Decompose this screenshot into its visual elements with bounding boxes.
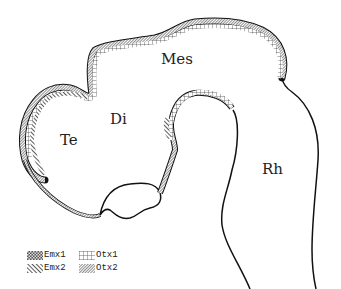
otx1-swatch-icon bbox=[79, 251, 95, 260]
legend-item-otx2: Otx2 bbox=[79, 263, 118, 273]
legend-item-otx1: Otx1 bbox=[79, 250, 118, 260]
label-rh: Rh bbox=[262, 162, 283, 177]
legend-label-emx1: Emx1 bbox=[44, 250, 66, 260]
legend-item-emx2: Emx2 bbox=[27, 263, 66, 273]
label-di: Di bbox=[110, 112, 127, 127]
emx2-swatch-icon bbox=[27, 264, 43, 273]
legend-label-otx1: Otx1 bbox=[96, 250, 118, 260]
legend-label-emx2: Emx2 bbox=[44, 263, 66, 273]
legend-label-otx2: Otx2 bbox=[96, 263, 118, 273]
otx2-swatch-icon bbox=[79, 264, 95, 273]
brain-outline bbox=[0, 0, 341, 289]
legend-item-emx1: Emx1 bbox=[27, 250, 66, 260]
label-te: Te bbox=[60, 133, 78, 148]
emx1-swatch-icon bbox=[27, 251, 43, 260]
diagram: Mes Di Te Rh Emx1 Otx1 Emx2 Otx2 bbox=[0, 0, 341, 289]
label-mes: Mes bbox=[161, 52, 193, 67]
